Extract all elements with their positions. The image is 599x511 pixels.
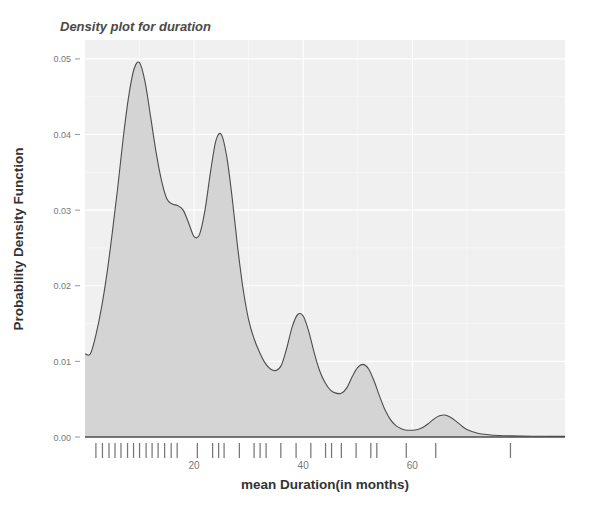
density-plot-figure: Density plot for duration 0.000.010.020.… (0, 0, 599, 511)
y-tick-label: 0.02 (53, 281, 71, 291)
chart-title: Density plot for duration (60, 19, 211, 34)
y-tick-label: 0.01 (53, 357, 71, 367)
y-tick-label: 0.00 (53, 433, 71, 443)
x-tick-label: 60 (407, 460, 419, 471)
x-axis-title: mean Duration(in months) (241, 477, 409, 492)
y-axis-title: Probability Density Function (11, 147, 26, 330)
y-tick-label: 0.04 (53, 130, 71, 140)
x-tick-label: 40 (298, 460, 310, 471)
y-tick-label: 0.05 (53, 54, 71, 64)
x-tick-label: 20 (189, 460, 201, 471)
y-tick-label: 0.03 (53, 206, 71, 216)
